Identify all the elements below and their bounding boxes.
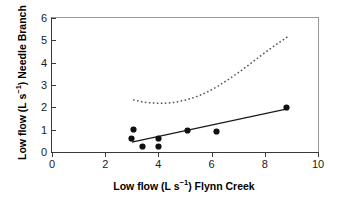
x-axis-tick-label: 10 (312, 158, 324, 170)
y-axis-tick-label: 1 (41, 124, 47, 136)
x-axis-title-superscript: −1 (180, 178, 189, 187)
y-axis-title: Low flow (L s−1) Needle Branch (14, 8, 28, 160)
x-axis-title-post: ) Flynn Creek (188, 180, 255, 192)
y-axis-tick-label: 6 (41, 12, 47, 24)
y-axis-tick-label: 0 (41, 146, 47, 158)
data-point (284, 105, 289, 110)
x-axis-tick-label: 2 (102, 158, 108, 170)
x-axis-tick (318, 152, 319, 157)
x-axis-tick (52, 152, 53, 157)
plot-area: 01234560246810 (51, 17, 319, 153)
data-point (156, 144, 161, 149)
data-point (131, 127, 136, 132)
series-line-dotted (133, 37, 287, 103)
data-point (156, 136, 161, 141)
x-axis-tick (265, 152, 266, 157)
y-axis-tick-label: 5 (41, 34, 47, 46)
data-point (140, 144, 145, 149)
x-axis-tick (105, 152, 106, 157)
series-line-solid (132, 109, 286, 142)
y-axis-tick-label: 2 (41, 101, 47, 113)
x-axis-tick-label: 4 (155, 158, 161, 170)
x-axis-tick (158, 152, 159, 157)
x-axis-tick (212, 152, 213, 157)
data-point (185, 128, 190, 133)
chart-figure: Low flow (L s−1) Needle Branch Low flow … (0, 0, 337, 200)
y-axis-title-superscript: −1 (14, 85, 23, 94)
y-axis-title-pre: Low flow (L s (16, 94, 28, 160)
y-axis-tick-label: 3 (41, 79, 47, 91)
x-axis-tick-label: 6 (209, 158, 215, 170)
y-axis-tick-label: 4 (41, 57, 47, 69)
plot-inner: 01234560246810 (52, 18, 318, 152)
x-axis-title-pre: Low flow (L s (113, 180, 179, 192)
x-axis-tick-label: 0 (49, 158, 55, 170)
x-axis-title: Low flow (L s−1) Flynn Creek (51, 178, 317, 192)
y-axis-title-post: ) Needle Branch (16, 5, 28, 85)
x-axis-tick-label: 8 (262, 158, 268, 170)
